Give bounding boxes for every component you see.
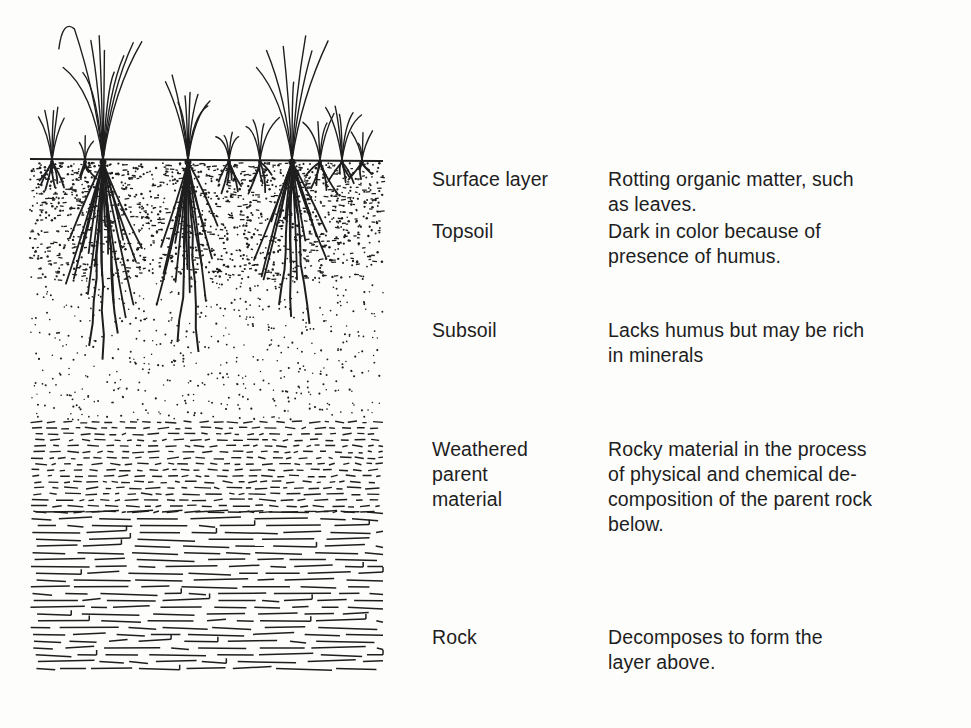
layer-description: Decomposes to form the layer above. [608, 625, 968, 675]
layer-name: Surface layer [432, 167, 602, 192]
rock-layer-texture [30, 510, 383, 670]
layer-name: Subsoil [432, 318, 602, 343]
layer-description: Dark in color because of presence of hum… [608, 219, 968, 269]
topsoil-texture [29, 162, 385, 281]
layer-name: Rock [432, 625, 602, 650]
layer-description: Rocky material in the process of physica… [608, 437, 968, 537]
layer-description: Rotting organic matter, such as leaves. [608, 167, 968, 217]
ground-surface-line [30, 159, 383, 161]
weathered-parent-material-texture [30, 421, 383, 513]
layer-name: Topsoil [432, 219, 602, 244]
layer-name: Weathered parent material [432, 437, 602, 512]
layer-description: Lacks humus but may be rich in minerals [608, 318, 968, 368]
subsoil-texture [30, 280, 384, 421]
soil-profile-illustration [0, 0, 400, 728]
